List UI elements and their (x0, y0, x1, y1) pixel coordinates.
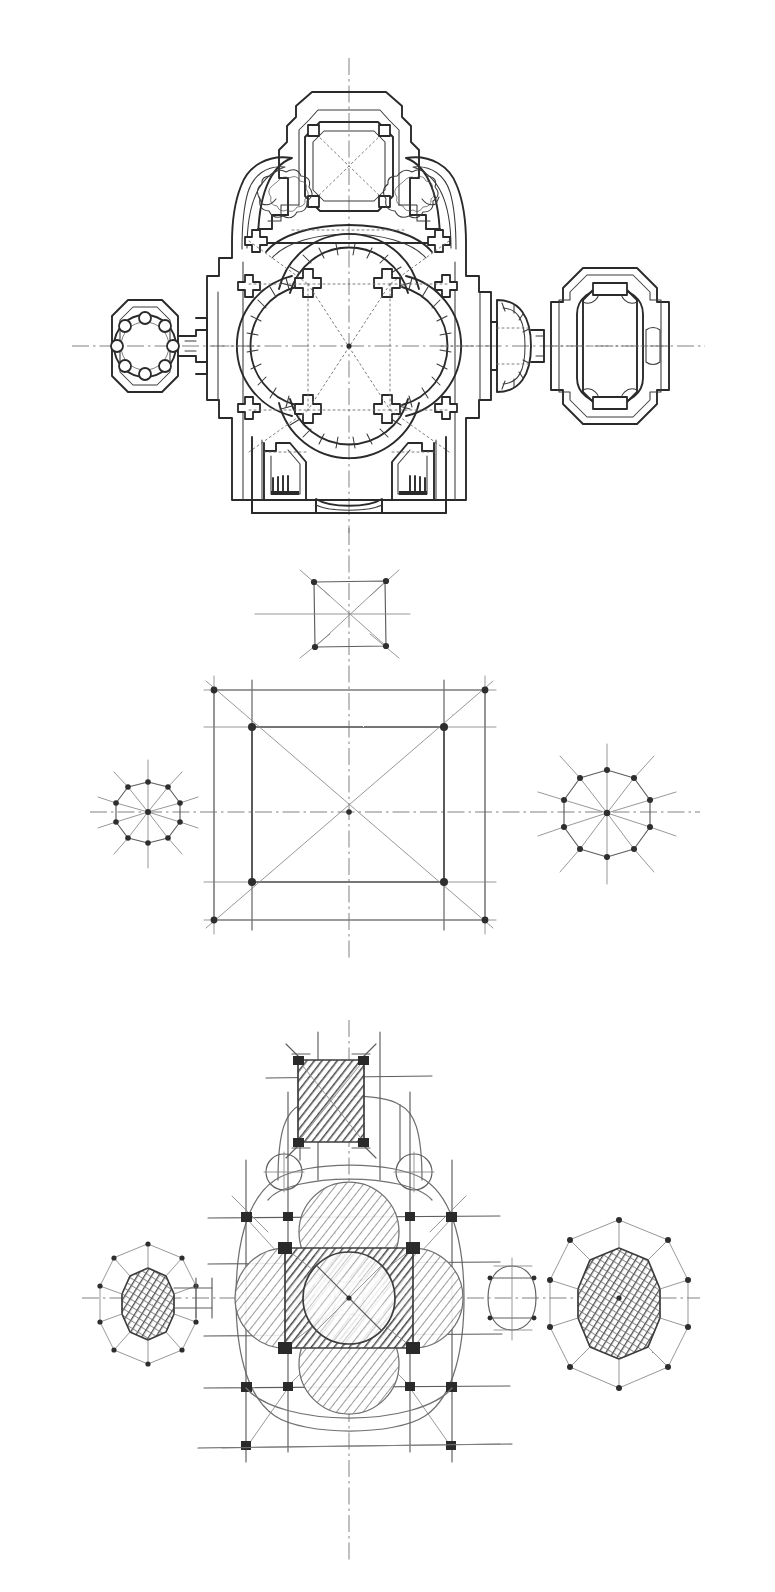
architectural-drawing-canvas (0, 0, 775, 1592)
plan-centre-point (346, 343, 351, 348)
chancel-mass-hatched (286, 1044, 376, 1158)
drawing-sheet: Centralized church — quatrefoil plan wit… (0, 0, 775, 1592)
